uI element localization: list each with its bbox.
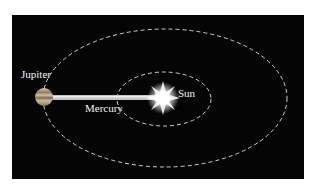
jupiter-icon: [35, 88, 53, 106]
sun-label: Sun: [178, 87, 195, 99]
mercury-label: Mercury: [85, 102, 123, 114]
jupiter-label: Jupiter: [21, 68, 51, 80]
orbit-diagram: [0, 0, 317, 187]
sun-icon: [146, 81, 180, 115]
